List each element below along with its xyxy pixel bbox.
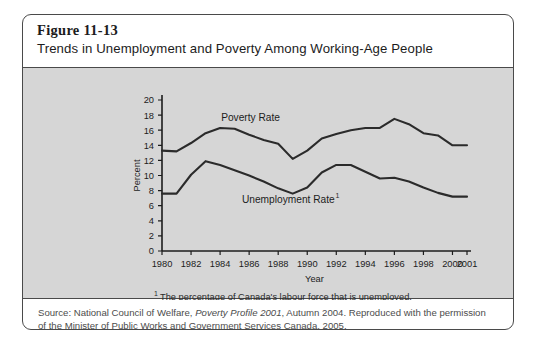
source-line-1-suffix: , Autumn 2004. Reproduced with the permi… bbox=[282, 307, 486, 318]
figure-container: Figure 11-13 Trends in Unemployment and … bbox=[22, 14, 514, 330]
source-line-1-prefix: Source: National Council of Welfare, bbox=[38, 307, 195, 318]
series-line-poverty-rate bbox=[162, 119, 467, 159]
y-tick-label-4: 4 bbox=[149, 216, 154, 226]
x-tick-label-1980: 1980 bbox=[152, 259, 173, 269]
x-tick-label-1984: 1984 bbox=[210, 259, 231, 269]
x-tick-label-1986: 1986 bbox=[239, 259, 260, 269]
x-tick-label-1982: 1982 bbox=[181, 259, 202, 269]
y-axis-title: Percent bbox=[132, 159, 142, 191]
x-tick-label-1990: 1990 bbox=[297, 259, 318, 269]
x-tick-label-1988: 1988 bbox=[268, 259, 289, 269]
x-tick-label-1998: 1998 bbox=[413, 259, 434, 269]
x-axis-title: Year bbox=[305, 274, 324, 284]
y-tick-label-6: 6 bbox=[149, 201, 154, 211]
line-chart: 0246810121416182019801982198419861988199… bbox=[23, 68, 514, 300]
series-label-poverty-rate: Poverty Rate bbox=[221, 112, 280, 123]
y-tick-label-20: 20 bbox=[144, 95, 154, 105]
footnote-marker: 1 bbox=[154, 290, 158, 297]
figure-header: Figure 11-13 Trends in Unemployment and … bbox=[23, 15, 513, 67]
figure-screenshot: Figure 11-13 Trends in Unemployment and … bbox=[0, 0, 539, 341]
x-tick-label-1992: 1992 bbox=[326, 259, 347, 269]
series-label-unemployment-rate: Unemployment Rate bbox=[242, 194, 335, 205]
x-tick-label-1996: 1996 bbox=[384, 259, 405, 269]
y-tick-label-12: 12 bbox=[144, 156, 154, 166]
y-tick-label-10: 10 bbox=[144, 171, 154, 181]
y-tick-label-8: 8 bbox=[149, 186, 154, 196]
figure-number: Figure 11-13 bbox=[37, 22, 513, 39]
x-tick-label-2001: 2001 bbox=[457, 259, 478, 269]
x-tick-label-1994: 1994 bbox=[355, 259, 376, 269]
source-publication-title: Poverty Profile 2001 bbox=[195, 307, 281, 318]
chart-panel: 0246810121416182019801982198419861988199… bbox=[23, 67, 514, 299]
y-tick-label-16: 16 bbox=[144, 126, 154, 136]
series-line-unemployment-rate bbox=[162, 161, 467, 196]
y-tick-label-0: 0 bbox=[149, 246, 154, 256]
y-tick-label-14: 14 bbox=[144, 141, 154, 151]
source-note: Source: National Council of Welfare, Pov… bbox=[23, 299, 514, 329]
figure-title: Trends in Unemployment and Poverty Among… bbox=[37, 40, 513, 58]
y-tick-label-18: 18 bbox=[144, 111, 154, 121]
y-tick-label-2: 2 bbox=[149, 231, 154, 241]
source-line-2: of the Minister of Public Works and Gove… bbox=[38, 320, 347, 330]
series-label-footnote-marker: 1 bbox=[335, 192, 339, 199]
